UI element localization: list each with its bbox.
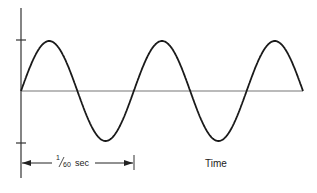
period-arrow-left-head [22,160,31,166]
period-label-numerator: 1 [56,154,60,161]
period-arrow-right-head [124,160,133,166]
period-label-unit: sec [75,158,90,168]
sine-wave-diagram: 1 60 sec Time [0,0,317,193]
period-label-denominator: 60 [63,161,71,168]
time-axis-label: Time [205,158,227,169]
